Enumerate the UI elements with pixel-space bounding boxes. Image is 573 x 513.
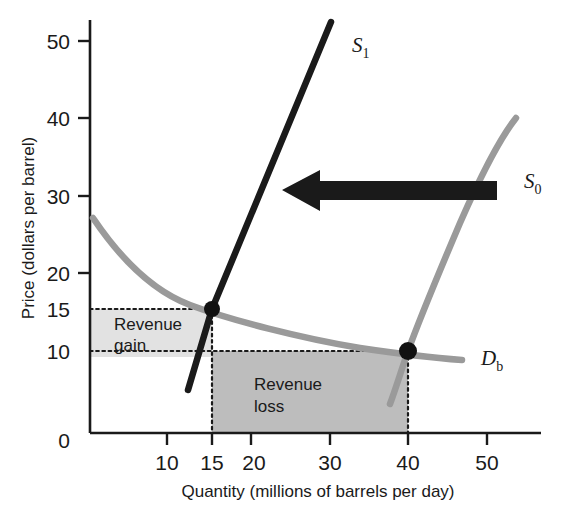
x-tick-label-20: 20	[242, 451, 265, 474]
x-tick-label-10: 10	[155, 451, 178, 474]
x-axis-title: Quantity (millions of barrels per day)	[181, 482, 454, 501]
y-tick-label-0: 0	[58, 429, 70, 452]
y-tick-label-20: 20	[47, 262, 70, 285]
curve-label-s0-base: S	[524, 169, 535, 193]
revenue-gain-label-line2: gain	[114, 336, 146, 355]
curve-label-s1-sub: 1	[363, 46, 370, 61]
revenue-loss-label-line1: Revenue	[254, 375, 322, 394]
curve-label-db-sub: b	[496, 359, 503, 374]
equilibrium-point-original	[399, 342, 417, 360]
curve-label-s1-base: S	[352, 33, 363, 57]
y-tick-label-15: 15	[47, 298, 70, 321]
equilibrium-point-new	[204, 301, 220, 317]
revenue-loss-label-line2: loss	[254, 397, 284, 416]
y-tick-label-40: 40	[47, 107, 70, 130]
revenue-gain-label-line1: Revenue	[114, 315, 182, 334]
supply-demand-chart: 50 40 30 20 15 10 0 10 15 20 30 40 50 Qu…	[0, 0, 573, 513]
y-tick-label-10: 10	[47, 340, 70, 363]
curve-label-db-base: D	[480, 346, 496, 370]
x-tick-label-30: 30	[318, 451, 341, 474]
y-tick-label-50: 50	[47, 30, 70, 53]
x-tick-label-15: 15	[200, 451, 223, 474]
x-tick-label-50: 50	[475, 451, 498, 474]
curve-label-s0-sub: 0	[535, 182, 542, 197]
x-tick-label-40: 40	[396, 451, 419, 474]
y-axis-title: Price (dollars per barrel)	[19, 137, 38, 319]
y-tick-label-30: 30	[47, 185, 70, 208]
